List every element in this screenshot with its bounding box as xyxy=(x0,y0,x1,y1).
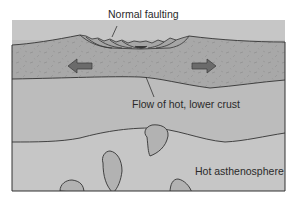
flow-lower-crust-label: Flow of hot, lower crust xyxy=(132,98,240,110)
hot-asthenosphere-label: Hot asthenosphere xyxy=(195,165,284,177)
normal-faulting-label: Normal faulting xyxy=(108,8,179,20)
